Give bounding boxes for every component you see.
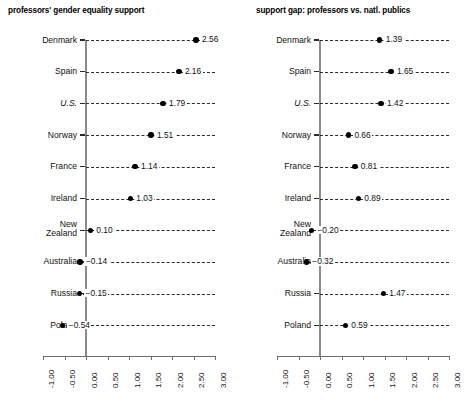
x-axis-tick xyxy=(363,356,364,360)
data-point xyxy=(356,196,361,201)
data-point xyxy=(343,323,348,328)
category-label: Norway xyxy=(234,130,311,140)
row-label-line1: New xyxy=(60,219,77,229)
plot-area-left: -1.00-0.500.000.501.001.502.002.503.00De… xyxy=(0,0,234,405)
data-point-value: 0.10 xyxy=(95,226,114,234)
data-point-value: 0.81 xyxy=(359,162,378,170)
data-point xyxy=(304,259,309,264)
x-axis-tick xyxy=(43,356,44,360)
data-point-value: 1.65 xyxy=(395,67,414,75)
category-tick xyxy=(314,325,319,326)
x-axis-tick xyxy=(385,356,386,360)
category-label: Poland xyxy=(0,320,77,330)
data-point xyxy=(77,291,82,296)
data-point-value: −0.20 xyxy=(316,226,340,234)
data-point xyxy=(352,164,357,169)
x-axis-tick xyxy=(428,356,429,360)
x-axis-tick xyxy=(194,356,195,360)
category-label: Spain xyxy=(234,66,311,76)
category-tick xyxy=(80,39,85,40)
x-axis-tick-label: 2.50 xyxy=(431,372,440,388)
x-axis-tick-label: 1.50 xyxy=(154,372,163,388)
x-axis-tick xyxy=(151,356,152,360)
x-axis-tick-label: 3.00 xyxy=(219,372,228,388)
data-point-value: −0.15 xyxy=(84,289,108,297)
x-axis-tick-label: -0.50 xyxy=(302,370,311,388)
data-point-value: 0.66 xyxy=(353,131,372,139)
category-label: U.S. xyxy=(234,98,311,108)
x-axis-tick xyxy=(215,356,216,360)
category-label: Ireland xyxy=(0,193,77,203)
row-label-line2: Zealand xyxy=(280,228,311,238)
category-label: Russia xyxy=(234,288,311,298)
x-axis-tick xyxy=(320,356,321,360)
data-point xyxy=(381,291,386,296)
data-point xyxy=(128,196,133,201)
panel-support-gap: support gap: professors vs. natl. public… xyxy=(234,0,468,405)
category-label: Ireland xyxy=(234,193,311,203)
data-point xyxy=(346,132,351,137)
category-label: Norway xyxy=(0,130,77,140)
x-axis-tick-label: 1.50 xyxy=(388,372,397,388)
x-axis-tick xyxy=(342,356,343,360)
data-point xyxy=(160,101,165,106)
data-point-value: 2.56 xyxy=(201,35,220,43)
category-label: France xyxy=(0,161,77,171)
x-axis-tick-label: 0.50 xyxy=(345,372,354,388)
category-tick xyxy=(314,293,319,294)
category-tick xyxy=(314,198,319,199)
category-label: Poland xyxy=(234,320,311,330)
category-label: Spain xyxy=(0,66,77,76)
category-label: Australia xyxy=(0,256,77,266)
x-axis-tick xyxy=(449,356,450,360)
category-tick xyxy=(314,134,319,135)
x-axis-tick xyxy=(129,356,130,360)
data-point-value: 0.89 xyxy=(363,194,382,202)
data-point xyxy=(193,37,198,42)
row-dashed-line xyxy=(320,135,449,136)
data-point-value: 1.42 xyxy=(386,99,405,107)
category-tick xyxy=(314,71,319,72)
x-axis-tick xyxy=(86,356,87,360)
row-dashed-line xyxy=(86,103,215,104)
x-axis-tick-label: 2.00 xyxy=(176,372,185,388)
category-label: Denmark xyxy=(234,35,311,45)
data-point-value: 1.03 xyxy=(135,194,154,202)
row-dashed-line xyxy=(320,72,449,73)
category-label: NewZealand xyxy=(0,220,77,239)
x-axis-tick xyxy=(108,356,109,360)
row-dashed-line xyxy=(320,262,449,263)
x-axis-tick-label: 2.00 xyxy=(410,372,419,388)
row-dashed-line xyxy=(320,103,449,104)
row-dashed-line xyxy=(320,325,449,326)
data-point-value: 1.47 xyxy=(388,289,407,297)
row-dashed-line xyxy=(320,167,449,168)
category-label: Australia xyxy=(234,256,311,266)
category-tick xyxy=(80,166,85,167)
data-point xyxy=(378,101,383,106)
category-tick xyxy=(314,103,319,104)
data-point xyxy=(88,228,93,233)
row-dashed-line xyxy=(86,325,215,326)
data-point-value: −0.14 xyxy=(84,257,108,265)
category-label: U.S. xyxy=(0,98,77,108)
data-point-value: 2.16 xyxy=(183,67,202,75)
category-label: NewZealand xyxy=(234,220,311,239)
data-point-value: 1.39 xyxy=(384,35,403,43)
data-point-value: 1.79 xyxy=(167,99,186,107)
category-tick xyxy=(80,103,85,104)
x-axis-tick-label: 3.00 xyxy=(453,372,462,388)
data-point xyxy=(309,228,314,233)
x-axis-tick-label: -1.00 xyxy=(47,370,56,388)
data-point-value: 1.51 xyxy=(155,131,174,139)
x-axis-tick-label: 0.00 xyxy=(90,372,99,388)
data-point-value: 0.59 xyxy=(350,321,369,329)
x-axis-tick-label: -0.50 xyxy=(68,370,77,388)
x-axis-tick-label: 2.50 xyxy=(197,372,206,388)
category-tick xyxy=(314,166,319,167)
data-point-value: 1.14 xyxy=(140,162,159,170)
data-point xyxy=(77,259,82,264)
category-tick xyxy=(80,230,85,231)
data-point xyxy=(388,69,393,74)
x-axis-tick xyxy=(172,356,173,360)
